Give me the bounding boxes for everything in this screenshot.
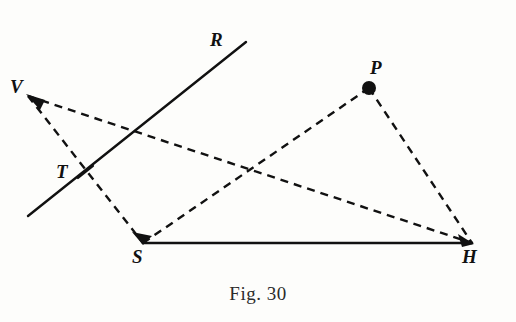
vertex-label-H: H: [462, 247, 477, 266]
vertex-label-V: V: [10, 77, 23, 96]
ray-TR-solid-line: [28, 42, 246, 216]
arrowhead-at-V: [26, 94, 45, 110]
vertex-label-P: P: [370, 58, 382, 77]
figure-caption: Fig. 30: [0, 283, 516, 305]
point-P-dot: [362, 81, 376, 95]
vertex-label-R: R: [210, 30, 223, 49]
figure-30-diagram: R V T S P H Fig. 30: [0, 0, 516, 322]
vertex-label-T: T: [56, 162, 68, 181]
segment-PH-dashed-line: [369, 88, 472, 243]
vertex-label-S: S: [132, 247, 143, 266]
segment-SP-dashed-line: [143, 88, 369, 243]
geometry-canvas: [0, 0, 516, 322]
